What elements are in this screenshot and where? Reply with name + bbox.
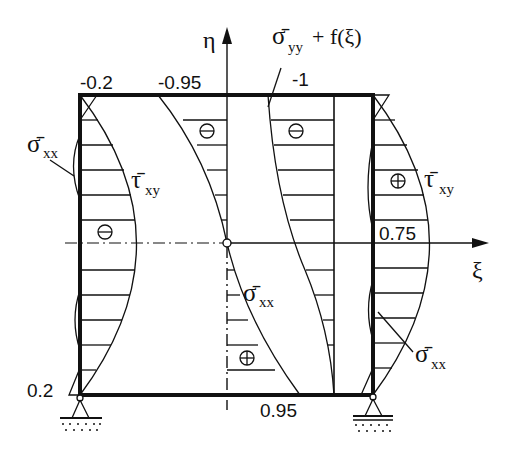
svg-text:xx: xx: [431, 356, 447, 372]
svg-text:+ f(ξ): + f(ξ): [312, 24, 362, 49]
sigma-yy-curve: [268, 95, 334, 395]
xi-arrow-icon: [472, 238, 489, 248]
sigma-xx-right-label: σ̄ xx: [415, 340, 447, 372]
svg-text:σ̄: σ̄: [27, 130, 44, 157]
support-left: [60, 395, 102, 431]
svg-text:σ̄: σ̄: [272, 22, 289, 49]
svg-text:xx: xx: [43, 145, 59, 161]
svg-text:yy: yy: [288, 39, 304, 55]
support-right: [353, 394, 393, 432]
eta-axis-label: η: [203, 27, 216, 53]
plus-sign-icon: [391, 174, 405, 188]
tau-xy-left-curve: [80, 95, 137, 395]
tau-xy-left-label: τ̄ xy: [131, 166, 161, 198]
origin-marker: [223, 239, 231, 247]
plus-sign-icon: [240, 351, 254, 365]
svg-text:xy: xy: [145, 182, 161, 198]
minus-sign-icon: [200, 124, 214, 138]
sigma-xx-middle-label: σ̄ xx: [243, 279, 275, 310]
sigma-xx-left-label: σ̄ xx: [27, 130, 59, 161]
svg-text:τ̄: τ̄: [424, 165, 438, 192]
value-bottom-left: 0.2: [27, 380, 53, 401]
svg-text:xy: xy: [439, 181, 455, 197]
value-right-mid: 0.75: [379, 223, 416, 244]
minus-sign-icon: [98, 225, 112, 239]
stress-diagram: η ξ σ̄ yy + f(ξ) σ̄ xx τ̄ xy σ̄ xx τ̄ xy…: [0, 0, 513, 455]
diagram-svg: η ξ σ̄ yy + f(ξ) σ̄ xx τ̄ xy σ̄ xx τ̄ xy…: [0, 0, 513, 455]
svg-text:xx: xx: [259, 294, 275, 310]
value-top-right: -1: [292, 69, 309, 90]
svg-text:τ̄: τ̄: [131, 166, 145, 193]
minus-sign-icon: [289, 124, 303, 138]
value-bottom-middle: 0.95: [260, 400, 297, 421]
eta-arrow-icon: [222, 27, 232, 44]
svg-text:σ̄: σ̄: [415, 340, 432, 367]
value-top-left: -0.2: [80, 72, 113, 93]
value-top-middle: -0.95: [158, 72, 201, 93]
tau-xy-right-label: τ̄ xy: [424, 165, 455, 197]
sign-markers: [98, 124, 405, 365]
sigma-yy-label: σ̄ yy + f(ξ): [272, 22, 362, 55]
xi-axis-label: ξ: [472, 257, 483, 283]
svg-text:σ̄: σ̄: [243, 279, 260, 306]
hatching: [80, 120, 428, 370]
